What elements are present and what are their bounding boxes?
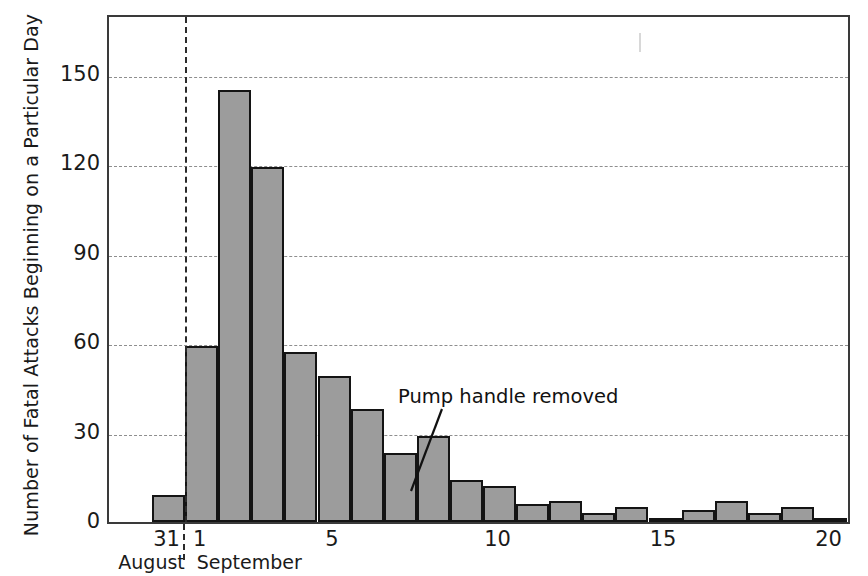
x-tick-label-31: 31 [153,528,180,550]
x-tick-label-1: 1 [193,528,206,550]
y-tick-label-0: 0 [44,511,100,532]
x-tick-label-20: 20 [815,528,842,550]
annotation-leader-line [109,17,852,526]
plot-area: Pump handle removed [107,15,850,524]
x-axis-month-label-september: September [197,552,302,572]
y-tick-label-60: 60 [44,332,100,353]
cholera-outbreak-chart: Number of Fatal Attacks Beginning on a P… [0,0,868,576]
y-tick-label-30: 30 [44,422,100,443]
scan-artifact [639,33,641,52]
y-tick-label-90: 90 [44,243,100,264]
x-tick-label-5: 5 [325,528,338,550]
x-tick-label-15: 15 [650,528,677,550]
plot-inner: Pump handle removed [109,17,848,522]
x-axis-month-label-august: August [118,552,185,572]
y-tick-label-150: 150 [44,64,100,85]
y-axis-tick-labels: 0306090120150 [38,0,100,576]
x-tick-label-10: 10 [484,528,511,550]
y-tick-label-120: 120 [44,153,100,174]
month-divider-extension [183,524,185,560]
